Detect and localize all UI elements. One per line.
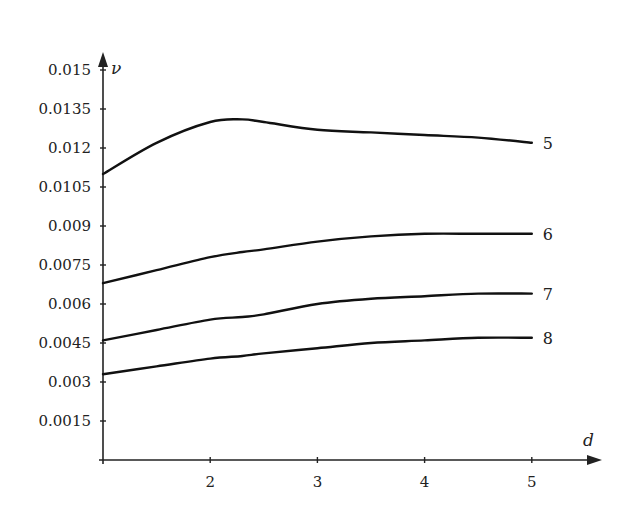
y-tick-label: 0.006 [48, 295, 91, 313]
y-tick-label: 0.0045 [39, 334, 92, 352]
series-label-8: 8 [543, 329, 553, 348]
series-lines [103, 119, 532, 374]
y-axis-ticks: 0.00150.0030.00450.0060.00750.0090.01050… [39, 61, 107, 430]
y-tick-label: 0.009 [48, 217, 91, 235]
series-line-5 [103, 119, 532, 174]
x-axis-arrow-icon [587, 455, 602, 465]
x-tick-label: 5 [527, 473, 537, 491]
y-tick-label: 0.012 [48, 139, 91, 157]
x-axis-title: d [583, 430, 594, 450]
y-tick-label: 0.003 [48, 373, 91, 391]
y-tick-label: 0.0075 [39, 256, 92, 274]
y-axis-title: ν [111, 58, 121, 78]
y-tick-label: 0.0015 [39, 412, 92, 430]
y-tick-label: 0.0135 [39, 100, 92, 118]
y-tick-label: 0.0105 [39, 178, 92, 196]
y-tick-label: 0.015 [48, 61, 91, 79]
x-tick-label: 4 [420, 473, 430, 491]
series-line-6 [103, 234, 532, 284]
y-axis-arrow-icon [98, 52, 108, 67]
series-line-7 [103, 293, 532, 340]
series-label-6: 6 [543, 225, 553, 244]
x-tick-label: 2 [205, 473, 215, 491]
x-tick-label: 3 [313, 473, 323, 491]
series-line-8 [103, 338, 532, 375]
series-label-7: 7 [543, 285, 553, 304]
series-labels: 5678 [543, 134, 553, 348]
x-axis-ticks: 2345 [205, 457, 536, 491]
series-label-5: 5 [543, 134, 553, 153]
axes [98, 52, 602, 465]
line-chart: 0.00150.0030.00450.0060.00750.0090.01050… [0, 0, 622, 513]
